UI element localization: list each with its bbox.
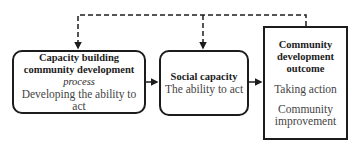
node-subtitle: The ability to act (165, 83, 243, 95)
outcome-item-taking-action: Taking action (274, 83, 337, 95)
node-subtitle: Developing the ability to act (14, 88, 144, 112)
outcome-item-community-improvement: Community (278, 103, 333, 115)
node-title: Community (279, 39, 333, 51)
node-title: Capacity building (39, 52, 119, 64)
node-title: outcome (287, 63, 325, 75)
node-title: development (277, 51, 334, 63)
capacity-building-node: Capacity building community development … (12, 50, 146, 114)
node-title-italic: process (63, 76, 95, 88)
outcome-item-community-improvement: improvement (275, 115, 336, 127)
social-capacity-node: Social capacity The ability to act (159, 50, 249, 116)
node-title: Social capacity (171, 71, 238, 83)
outcome-node: Community development outcome Taking act… (263, 26, 348, 140)
node-title: community development (24, 64, 135, 76)
